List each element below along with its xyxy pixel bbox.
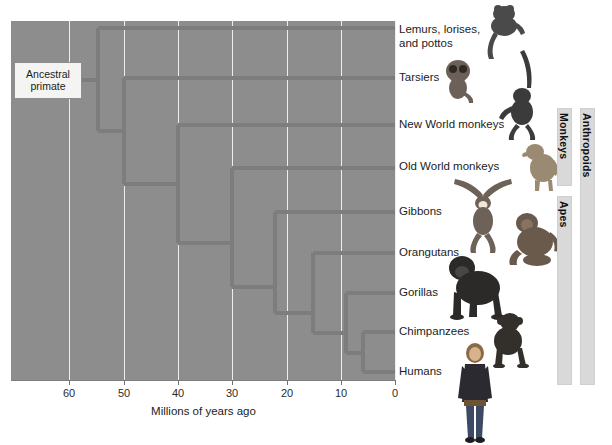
axis-tick-10 [341, 380, 342, 385]
clade-label-anthropoids: Anthropoids [581, 113, 593, 178]
axis-ticklabel-0: 0 [392, 387, 398, 399]
taxon-label-gorillas: Gorillas [399, 285, 438, 299]
figure-root: Ancestral primate 60 50 40 30 20 10 0 Mi… [0, 0, 612, 445]
axis-ticklabel-30: 30 [226, 387, 238, 399]
axis-ticklabel-10: 10 [335, 387, 347, 399]
tarsier-illustration [441, 57, 477, 103]
spider-monkey-illustration [498, 48, 542, 140]
gibbon-illustration [453, 175, 513, 253]
taxon-label-chimpanzees: Chimpanzees [399, 324, 469, 338]
axis-ticklabel-50: 50 [118, 387, 130, 399]
axis-tick-30 [232, 380, 233, 385]
clade-label-monkeys: Monkeys [558, 113, 570, 159]
human-illustration [455, 340, 495, 444]
taxon-label-gibbons: Gibbons [399, 204, 442, 218]
taxon-label-old-world-monkeys: Old World monkeys [399, 159, 499, 173]
clade-label-apes: Apes [558, 201, 570, 227]
axis-tick-40 [178, 380, 179, 385]
ancestral-primate-label: Ancestral primate [14, 62, 82, 99]
axis-ticklabel-20: 20 [281, 387, 293, 399]
taxon-label-new-world-monkeys: New World monkeys [399, 117, 504, 131]
axis-title: Millions of years ago [11, 405, 396, 417]
axis-tick-60 [69, 380, 70, 385]
taxon-label-lemurs: Lemurs, lorises, and pottos [399, 22, 480, 50]
orangutan-illustration [505, 210, 563, 268]
axis-tick-20 [287, 380, 288, 385]
taxon-label-humans: Humans [399, 364, 442, 378]
axis-ticklabel-60: 60 [63, 387, 75, 399]
axis-ticklabel-40: 40 [172, 387, 184, 399]
axis-tick-0 [395, 380, 396, 385]
taxon-label-tarsiers: Tarsiers [399, 70, 439, 84]
baboon-illustration [521, 140, 559, 192]
axis-tick-50 [124, 380, 125, 385]
